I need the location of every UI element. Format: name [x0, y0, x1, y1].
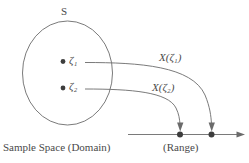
- sample-space-label: S: [61, 6, 67, 17]
- range-caption: (Range): [163, 142, 198, 153]
- range-point-dot-1: [177, 132, 183, 138]
- sample-point-label-zeta2: ζ₂: [69, 81, 77, 92]
- range-line-arrowhead: [237, 132, 246, 138]
- sample-space-ellipse: [23, 21, 113, 125]
- sample-point-dot-zeta2: [61, 86, 66, 91]
- mapping-arrowhead-zeta1: [209, 123, 215, 132]
- sample-point-dot-zeta1: [61, 59, 66, 64]
- range-point-dot-2: [209, 132, 215, 138]
- mapping-label-x-zeta2: X(ζ₂): [152, 82, 174, 93]
- diagram-canvas: [0, 0, 249, 163]
- domain-caption: Sample Space (Domain): [3, 142, 111, 153]
- mapping-arrowhead-zeta2: [177, 123, 183, 132]
- random-variable-mapping-diagram: S ζ₁ ζ₂ X(ζ₁) X(ζ₂) Sample Space (Domain…: [0, 0, 249, 163]
- sample-point-label-zeta1: ζ₁: [69, 55, 77, 66]
- mapping-label-x-zeta1: X(ζ₁): [159, 52, 181, 63]
- mapping-arrow-zeta2: [85, 89, 180, 124]
